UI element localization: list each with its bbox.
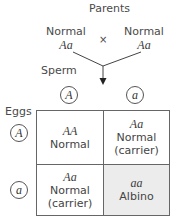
egg-allele-A: A: [10, 124, 28, 142]
cell-genotype: Aa: [63, 171, 76, 184]
cell-phenotype: Albino: [119, 190, 153, 203]
cell-note: (carrier): [114, 144, 159, 157]
cell-genotype: Aa: [130, 118, 143, 131]
punnett-cell-AA: AA Normal: [37, 111, 104, 165]
punnett-cell-Aa-bottom: Aa Normal (carrier): [37, 165, 104, 215]
cell-note: (carrier): [48, 197, 93, 210]
sperm-allele-A: A: [60, 86, 78, 104]
eggs-label: Eggs: [5, 105, 32, 118]
cell-phenotype: Normal: [117, 131, 157, 144]
sperm-allele-a: a: [126, 86, 144, 104]
cell-genotype: AA: [63, 125, 78, 138]
egg-allele-a: a: [10, 181, 28, 199]
punnett-cell-Aa-top: Aa Normal (carrier): [104, 111, 169, 165]
sperm-label: Sperm: [41, 64, 77, 77]
punnett-square: AA Normal Aa Normal (carrier) Aa Normal …: [36, 110, 170, 216]
punnett-cell-aa: aa Albino: [104, 165, 169, 215]
cell-genotype: aa: [131, 177, 143, 190]
cell-phenotype: Normal: [50, 184, 90, 197]
cell-phenotype: Normal: [50, 138, 90, 151]
